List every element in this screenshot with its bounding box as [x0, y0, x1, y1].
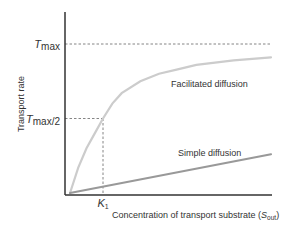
- tmax-half-tick-label: Tmax/2: [26, 113, 60, 127]
- tmax-tick-label: Tmax: [34, 38, 60, 52]
- k1-tick-label: K1: [97, 197, 108, 210]
- facilitated-diffusion-label: Facilitated diffusion: [171, 79, 248, 89]
- x-axis-label: Concentration of transport substrate (So…: [112, 210, 279, 221]
- simple-diffusion-label: Simple diffusion: [178, 148, 241, 158]
- y-axis-label: Transport rate: [16, 76, 26, 132]
- simple-diffusion-line: [70, 154, 271, 193]
- chart: Tmax Tmax/2 K1 Transport rate Concentrat…: [0, 0, 287, 229]
